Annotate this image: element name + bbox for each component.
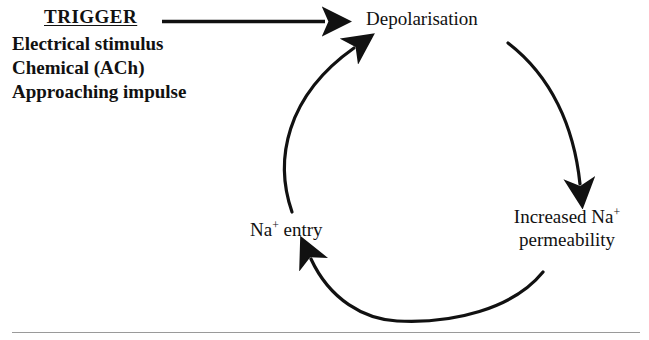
bottom-divider	[12, 332, 640, 333]
diagram-canvas: TRIGGER Electrical stimulus Chemical (AC…	[0, 0, 649, 340]
arc-na-entry-to-depolarisation	[284, 48, 354, 212]
arrows-layer	[0, 0, 649, 340]
arc-depolarisation-to-permeability	[508, 43, 580, 184]
arc-permeability-to-na-entry	[311, 259, 543, 321]
